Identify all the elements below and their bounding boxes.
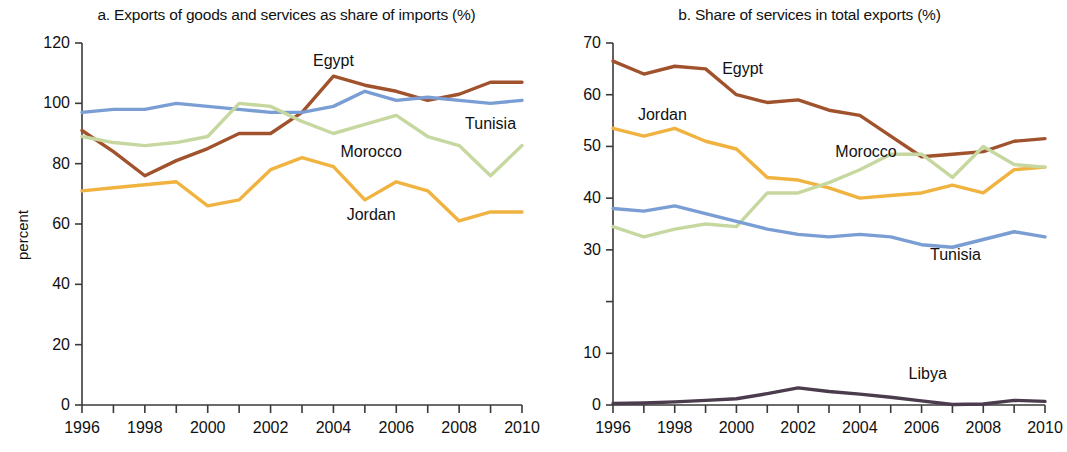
- y-axis-tick-label: 40: [52, 275, 70, 293]
- panel-b-plot-area: 0103040506070199619982000200220042006200…: [613, 43, 1045, 405]
- series-annotation-tunisia: Tunisia: [465, 115, 516, 133]
- x-axis-tick-label: 2006: [904, 419, 940, 437]
- x-axis-tick-label: 2006: [378, 419, 414, 437]
- x-axis-tick-label: 1996: [595, 419, 631, 437]
- x-axis-tick-label: 1998: [127, 419, 163, 437]
- y-axis-tick-label: 70: [583, 34, 601, 52]
- y-axis-tick-label: 120: [43, 34, 70, 52]
- y-axis-tick-label: 100: [43, 94, 70, 112]
- series-line-jordan: [613, 128, 1045, 198]
- series-annotation-morocco: Morocco: [340, 143, 401, 161]
- series-annotation-egypt: Egypt: [313, 52, 354, 70]
- y-axis-tick-label: 0: [592, 396, 601, 414]
- series-line-jordan: [82, 158, 522, 221]
- panel-b-title: b. Share of services in total exports (%…: [551, 6, 1067, 24]
- series-annotation-tunisia: Tunisia: [930, 246, 981, 264]
- y-axis-tick-label: 60: [583, 86, 601, 104]
- y-axis-tick-label: 0: [61, 396, 70, 414]
- series-annotation-jordan: Jordan: [347, 206, 396, 224]
- series-line-egypt: [82, 76, 522, 176]
- y-axis-tick-label: 60: [52, 215, 70, 233]
- x-axis-tick-label: 2008: [441, 419, 477, 437]
- y-axis-tick-label: 20: [52, 336, 70, 354]
- y-axis-tick-label: 40: [583, 189, 601, 207]
- panel-a-plot-area: 0204060801001201996199820002002200420062…: [82, 43, 522, 405]
- x-axis-tick-label: 2000: [190, 419, 226, 437]
- chart-svg: [613, 43, 1045, 405]
- x-axis-tick-label: 2000: [719, 419, 755, 437]
- x-axis-tick-label: 2010: [1027, 419, 1063, 437]
- series-annotation-jordan: Jordan: [638, 106, 687, 124]
- series-annotation-libya: Libya: [909, 365, 947, 383]
- chart-svg: [82, 43, 522, 405]
- y-axis-tick-label: 80: [52, 155, 70, 173]
- y-axis-tick-label: 30: [583, 241, 601, 259]
- x-axis-tick-label: 2004: [842, 419, 878, 437]
- panel-b: b. Share of services in total exports (%…: [545, 0, 1062, 452]
- x-axis-tick-label: 1998: [657, 419, 693, 437]
- x-axis-tick-label: 1996: [64, 419, 100, 437]
- x-axis-tick-label: 2004: [316, 419, 352, 437]
- series-annotation-morocco: Morocco: [835, 143, 896, 161]
- series-line-tunisia: [613, 206, 1045, 247]
- series-annotation-egypt: Egypt: [722, 60, 763, 78]
- series-line-libya: [613, 388, 1045, 405]
- x-axis-tick-label: 2010: [504, 419, 540, 437]
- y-axis-tick-label: 50: [583, 137, 601, 155]
- panel-a-y-axis-title: percent: [14, 210, 31, 260]
- y-axis-tick-label: 10: [583, 344, 601, 362]
- panel-a-title: a. Exports of goods and services as shar…: [14, 6, 559, 24]
- x-axis-tick-label: 2002: [253, 419, 289, 437]
- x-axis-tick-label: 2008: [965, 419, 1001, 437]
- x-axis-tick-label: 2002: [780, 419, 816, 437]
- panel-a: a. Exports of goods and services as shar…: [0, 0, 545, 452]
